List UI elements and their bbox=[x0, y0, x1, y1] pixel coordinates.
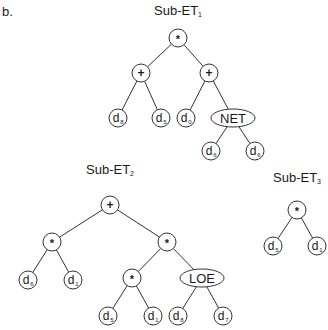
svg-text:d: d bbox=[113, 111, 120, 125]
tree-edge bbox=[148, 44, 172, 67]
svg-text:*: * bbox=[295, 205, 300, 217]
svg-text:LOE: LOE bbox=[189, 271, 215, 286]
svg-text:d: d bbox=[68, 273, 75, 287]
tree-edge bbox=[213, 81, 229, 111]
svg-text:*: * bbox=[165, 237, 170, 249]
tree-edge bbox=[216, 125, 229, 144]
sub-et-2: +**d6d1*LOEd5d1d8d7 bbox=[19, 196, 232, 325]
svg-text:*: * bbox=[176, 33, 181, 45]
expression-trees-diagram: *++d8d5d0NETd6d6+**d6d1*LOEd5d1d8d7*d5d1 bbox=[0, 0, 328, 330]
tree-node-op: * bbox=[43, 233, 61, 251]
tree-edge bbox=[278, 217, 292, 238]
svg-text:+: + bbox=[106, 198, 113, 212]
tree-edge bbox=[136, 286, 148, 308]
tree-node-func: NET bbox=[211, 109, 255, 127]
tree-node-leaf: d6 bbox=[202, 142, 220, 160]
tree-node-op: * bbox=[169, 29, 187, 47]
svg-text:*: * bbox=[130, 273, 135, 285]
tree-edge bbox=[173, 248, 196, 272]
tree-edge bbox=[301, 218, 312, 238]
tree-edge bbox=[206, 285, 219, 308]
svg-text:+: + bbox=[205, 66, 212, 80]
tree-edge bbox=[190, 81, 205, 110]
svg-text:+: + bbox=[137, 66, 144, 80]
tree-node-op: + bbox=[200, 64, 218, 82]
tree-node-op: + bbox=[101, 196, 119, 214]
tree-node-leaf: d1 bbox=[308, 237, 326, 255]
tree-node-leaf: d8 bbox=[109, 109, 127, 127]
svg-text:d: d bbox=[250, 144, 257, 158]
tree-edge bbox=[56, 250, 68, 272]
svg-text:d: d bbox=[173, 309, 180, 323]
tree-edge bbox=[122, 81, 137, 110]
sub-et-3: *d5d1 bbox=[264, 201, 326, 255]
tree-node-leaf: d6 bbox=[19, 271, 37, 289]
svg-text:d: d bbox=[23, 273, 30, 287]
tree-node-leaf: d7 bbox=[214, 307, 232, 325]
svg-text:d: d bbox=[181, 111, 188, 125]
tree-edge bbox=[138, 248, 160, 271]
tree-node-leaf: d1 bbox=[64, 271, 82, 289]
svg-text:d: d bbox=[148, 309, 155, 323]
svg-text:d: d bbox=[103, 309, 110, 323]
tree-node-func: LOE bbox=[180, 269, 224, 287]
tree-node-leaf: d1 bbox=[144, 307, 162, 325]
tree-edge bbox=[60, 210, 103, 237]
tree-node-leaf: d5 bbox=[152, 109, 170, 127]
tree-edge bbox=[184, 45, 203, 67]
tree-node-leaf: d5 bbox=[99, 307, 117, 325]
svg-text:*: * bbox=[50, 237, 55, 249]
sub-et-1: *++d8d5d0NETd6d6 bbox=[109, 29, 264, 160]
tree-edge bbox=[183, 285, 198, 309]
tree-node-op: + bbox=[132, 64, 150, 82]
tree-node-leaf: d6 bbox=[246, 142, 264, 160]
tree-edge bbox=[113, 286, 127, 309]
tree-edge bbox=[118, 210, 160, 237]
tree-node-leaf: d5 bbox=[264, 237, 282, 255]
svg-text:d: d bbox=[312, 239, 319, 253]
svg-text:d: d bbox=[218, 309, 225, 323]
tree-edge bbox=[33, 250, 47, 273]
tree-edge bbox=[237, 125, 250, 144]
tree-node-op: * bbox=[288, 201, 306, 219]
tree-node-op: * bbox=[158, 233, 176, 251]
svg-text:d: d bbox=[206, 144, 213, 158]
tree-edge bbox=[145, 81, 158, 110]
svg-text:d: d bbox=[268, 239, 275, 253]
svg-text:d: d bbox=[156, 111, 163, 125]
tree-node-op: * bbox=[123, 269, 141, 287]
svg-text:NET: NET bbox=[220, 111, 246, 126]
tree-node-leaf: d8 bbox=[169, 307, 187, 325]
tree-node-leaf: d0 bbox=[177, 109, 195, 127]
